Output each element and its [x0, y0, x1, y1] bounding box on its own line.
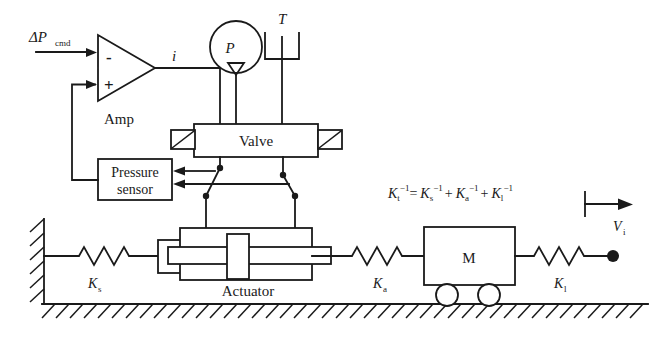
current-signal-wire [155, 68, 220, 124]
stiffness-equation: Kt−1=Ks−1+Ka−1+Kl−1 [387, 183, 513, 203]
actuator-piston [227, 234, 249, 279]
spring-load-sublabel: l [564, 284, 567, 294]
mass-wheel-left [436, 284, 458, 306]
hydraulic-lines [203, 157, 298, 228]
spring-actuator: K a [331, 247, 424, 294]
pressure-supply[interactable]: P [210, 21, 262, 124]
valve-right-actuator-icon [318, 130, 342, 149]
velocity-label: V [613, 219, 623, 234]
hydraulic-line-right [283, 157, 295, 228]
ground [42, 304, 648, 318]
pressure-supply-circle [210, 21, 262, 73]
pressure-sensor-label-line2: sensor [117, 182, 153, 197]
spring-actuator-coil [331, 247, 424, 265]
wall-hatching [30, 219, 44, 302]
pressure-sensor-label-line1: Pressure [111, 165, 158, 180]
pressure-sense-arrow-upper [173, 167, 185, 176]
mass-cart[interactable]: M [424, 227, 515, 306]
system-diagram: ΔP cmd - + Amp i P T [0, 0, 668, 350]
junction-dot-left-lower [203, 193, 209, 199]
pressure-sense-lines [173, 167, 289, 189]
diagram-canvas: ΔP cmd - + Amp i P T [0, 0, 668, 350]
command-input-sublabel: cmd [55, 38, 71, 48]
spring-structure: K s [44, 247, 158, 294]
command-input-signal: ΔP cmd [28, 29, 97, 57]
feedback-wire-path [72, 85, 98, 181]
spring-actuator-sublabel: a [383, 284, 387, 294]
tank-return-label: T [278, 11, 288, 27]
pressure-supply-label: P [224, 40, 234, 56]
spring-load-label: K [553, 276, 564, 291]
ground-hatching [42, 304, 643, 318]
stiffness-equation-text: Kt−1=Ks−1+Ka−1+Kl−1 [387, 183, 513, 203]
amplifier-label: Amp [104, 111, 134, 127]
junction-dot-right-lower [292, 193, 298, 199]
spring-load-coil [515, 247, 608, 265]
velocity-sublabel: i [623, 227, 626, 237]
current-signal-path: i [155, 48, 220, 124]
actuator-label: Actuator [222, 283, 274, 299]
valve-label: Valve [239, 133, 273, 149]
valve[interactable]: Valve [171, 124, 342, 157]
amplifier[interactable]: - + Amp [98, 35, 155, 127]
spring-load: K l [515, 247, 619, 294]
actuator[interactable]: Actuator [158, 228, 348, 299]
spring-actuator-label: K [372, 276, 383, 291]
mass-wheel-right [478, 284, 500, 306]
velocity-indicator: V i [585, 192, 633, 237]
junction-dot-left-upper [217, 165, 223, 171]
valve-left-actuator-icon [171, 130, 195, 149]
command-input-label: ΔP [28, 29, 47, 45]
velocity-arrowhead [618, 199, 633, 211]
command-input-arrowhead [86, 48, 97, 57]
mass-label: M [462, 250, 475, 266]
feedback-wire [72, 85, 98, 181]
amplifier-minus-terminal: - [106, 48, 112, 67]
wall [30, 219, 44, 304]
current-signal-label: i [172, 48, 176, 64]
spring-structure-label: K [87, 276, 98, 291]
tank-return[interactable]: T [265, 11, 299, 124]
spring-structure-sublabel: s [98, 284, 102, 294]
pressure-sense-arrow-lower [173, 180, 185, 189]
spring-structure-coil [44, 247, 158, 265]
junction-dot-right-upper [280, 172, 286, 178]
amplifier-plus-terminal: + [104, 76, 114, 95]
load-terminal-dot [607, 250, 619, 262]
pressure-sensor[interactable]: Pressure sensor [98, 159, 172, 200]
